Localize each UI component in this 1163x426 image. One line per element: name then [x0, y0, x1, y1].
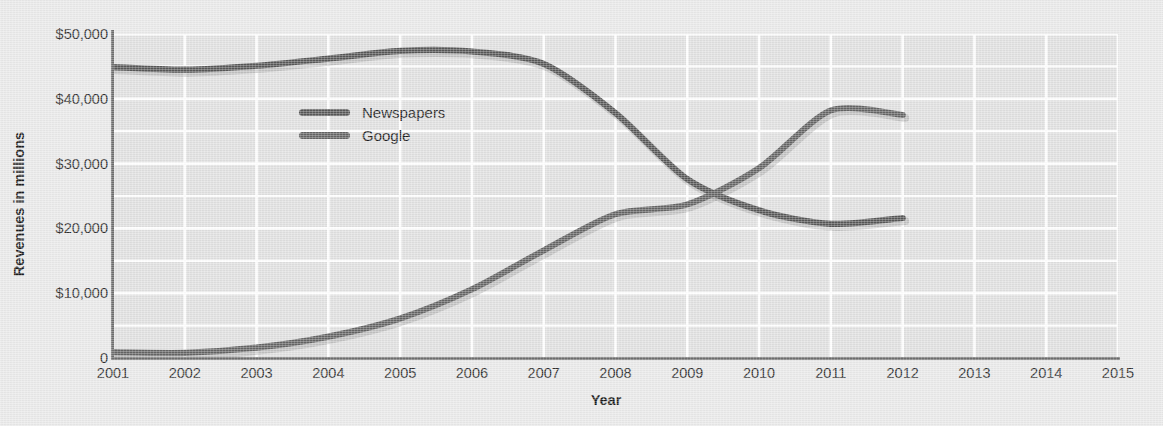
legend-item-newspapers[interactable]: Newspapers — [299, 101, 445, 124]
legend-label: Google — [362, 128, 410, 143]
x-axis-line — [111, 357, 1120, 360]
data-series-group — [113, 50, 905, 356]
x-axis-title: Year — [0, 392, 1163, 408]
x-axis-tick-label: 2011 — [815, 366, 846, 381]
chart-legend: NewspapersGoogle — [299, 101, 445, 147]
x-axis-tick-label: 2012 — [887, 366, 919, 381]
y-axis-title: Revenues in millions — [11, 104, 27, 304]
legend-swatch-newspapers — [299, 109, 350, 116]
plot-svg — [113, 34, 1118, 358]
x-axis-tick-label: 2008 — [599, 366, 631, 381]
y-axis-tick-label: 0 — [4, 351, 108, 366]
x-axis-tick-label: 2007 — [528, 366, 560, 381]
legend-item-google[interactable]: Google — [299, 124, 445, 147]
series-line-google[interactable] — [113, 108, 903, 353]
x-axis-tick-label: 2014 — [1030, 366, 1062, 381]
x-axis-tick-label: 2005 — [384, 366, 416, 381]
x-axis-tick-label: 2015 — [1102, 366, 1134, 381]
x-axis-tick-label: 2001 — [97, 366, 129, 381]
y-axis-tick-label: $50,000 — [4, 27, 108, 42]
series-line-shadow-newspapers — [116, 53, 906, 227]
x-axis-tick-labels: 2001200220032004200520062007200820092010… — [0, 366, 1163, 388]
x-axis-tick-label: 2013 — [958, 366, 990, 381]
line-chart: 0$10,000$20,000$30,000$40,000$50,000 200… — [0, 0, 1163, 426]
x-axis-tick-label: 2003 — [240, 366, 272, 381]
y-axis-line — [111, 30, 114, 360]
x-axis-tick-label: 2002 — [169, 366, 201, 381]
x-axis-tick-label: 2004 — [312, 366, 344, 381]
x-axis-tick-label: 2006 — [456, 366, 488, 381]
plot-area — [113, 34, 1118, 358]
legend-label: Newspapers — [362, 105, 445, 120]
series-line-newspapers[interactable] — [113, 50, 903, 224]
x-axis-tick-label: 2009 — [671, 366, 703, 381]
gridlines — [113, 34, 1118, 358]
x-axis-tick-label: 2010 — [743, 366, 775, 381]
legend-swatch-google — [299, 132, 350, 139]
